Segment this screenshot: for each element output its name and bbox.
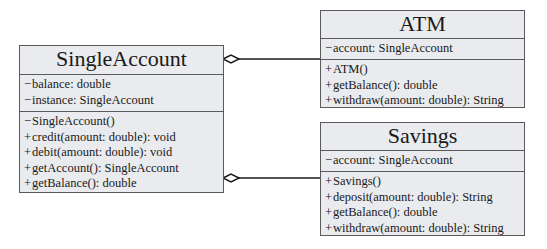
visibility-public: + [324,221,333,237]
attributes-section: −balance: double −instance: SingleAccoun… [20,75,223,112]
method-row: +credit(amount: double): void [23,130,223,146]
method-text: getBalance(): double [333,78,437,92]
visibility-private: − [23,93,32,109]
attribute-text: balance: double [32,77,111,91]
visibility-public: + [23,130,32,146]
visibility-public: + [324,93,333,109]
method-row: +debit(amount: double): void [23,145,223,161]
visibility-public: + [23,145,32,161]
method-row: +getBalance(): double [23,176,223,192]
attribute-row: −account: SingleAccount [324,153,524,169]
attribute-row: −account: SingleAccount [324,41,524,57]
visibility-private: − [324,153,333,169]
method-row: +getBalance(): double [324,205,524,221]
method-row: +deposit(amount: double): String [324,190,524,206]
method-text: withdraw(amount: double): String [333,221,504,235]
attribute-text: account: SingleAccount [333,41,453,55]
methods-section: −SingleAccount() +credit(amount: double)… [20,112,223,194]
visibility-public: + [23,161,32,177]
method-row: +getAccount(): SingleAccount [23,161,223,177]
attribute-text: instance: SingleAccount [32,93,154,107]
method-text: getBalance(): double [32,176,136,190]
method-text: getAccount(): SingleAccount [32,161,179,175]
class-name: Savings [321,123,524,151]
class-single-account[interactable]: SingleAccount −balance: double −instance… [19,45,224,193]
class-atm[interactable]: ATM −account: SingleAccount +ATM() +getB… [320,10,525,108]
method-text: SingleAccount() [32,114,115,128]
attribute-row: −instance: SingleAccount [23,93,223,109]
methods-section: +ATM() +getBalance(): double +withdraw(a… [321,60,524,111]
visibility-public: + [324,174,333,190]
visibility-public: + [23,176,32,192]
method-row: +withdraw(amount: double): String [324,93,524,109]
method-text: withdraw(amount: double): String [333,93,504,107]
attribute-row: −balance: double [23,77,223,93]
method-text: debit(amount: double): void [32,145,172,159]
attribute-text: account: SingleAccount [333,153,453,167]
method-text: Savings() [333,174,381,188]
visibility-public: + [324,205,333,221]
attributes-section: −account: SingleAccount [321,151,524,172]
method-text: getBalance(): double [333,205,437,219]
class-name: ATM [321,11,524,39]
method-row: +Savings() [324,174,524,190]
aggregation-savings [223,174,320,182]
method-row: −SingleAccount() [23,114,223,130]
visibility-public: + [324,62,333,78]
visibility-public: + [324,78,333,94]
aggregation-diamond-icon [223,174,239,182]
visibility-private: − [23,77,32,93]
class-name: SingleAccount [20,46,223,75]
method-text: ATM() [333,62,368,76]
method-row: +withdraw(amount: double): String [324,221,524,237]
methods-section: +Savings() +deposit(amount: double): Str… [321,172,524,238]
attributes-section: −account: SingleAccount [321,39,524,60]
aggregation-atm [223,55,320,63]
method-text: credit(amount: double): void [32,130,176,144]
method-text: deposit(amount: double): String [333,190,493,204]
class-savings[interactable]: Savings −account: SingleAccount +Savings… [320,122,525,236]
method-row: +getBalance(): double [324,78,524,94]
visibility-public: + [324,190,333,206]
aggregation-diamond-icon [223,55,239,63]
visibility-private: − [23,114,32,130]
method-row: +ATM() [324,62,524,78]
visibility-private: − [324,41,333,57]
